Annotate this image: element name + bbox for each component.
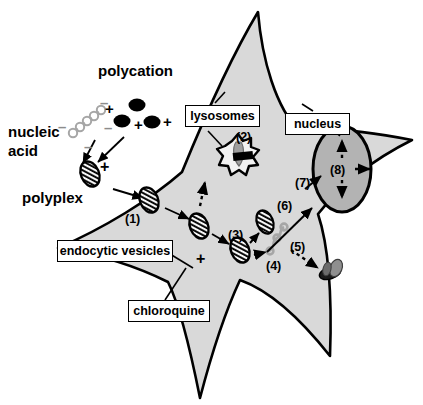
- step-label-4: (4): [266, 259, 281, 273]
- label-polycation: polycation: [98, 62, 173, 79]
- label-box-nucleus: nucleus: [285, 113, 350, 135]
- step-label-5: (5): [290, 240, 305, 254]
- label-nucleic-acid-line1: nucleic: [8, 123, 60, 140]
- charge-plus-polycation-3: +: [163, 113, 172, 130]
- leader-nucleus-up: [302, 104, 313, 111]
- label-box-endocytic-vesicles: endocytic vesicles: [57, 240, 173, 262]
- label-nucleic-acid-line2: acid: [8, 142, 38, 159]
- charge-minus-nucleic-4: –: [84, 138, 92, 155]
- step-label-3: (3): [228, 228, 243, 242]
- charge-plus-polycation-2: +: [134, 116, 143, 133]
- step-label-6: (6): [277, 199, 292, 213]
- step-label-1: (1): [125, 212, 140, 226]
- figure-canvas: polycation nucleic acid polyplex + + + –…: [0, 0, 423, 405]
- step-label-2: (2): [236, 130, 251, 144]
- charge-minus-nucleic-1: –: [100, 94, 108, 111]
- step-label-8: (8): [330, 163, 345, 177]
- charge-plus-polyplex: +: [100, 158, 109, 176]
- charge-plus-chloroquine: +: [196, 250, 205, 268]
- charge-minus-nucleic-2: –: [58, 118, 66, 135]
- label-polyplex: polyplex: [22, 189, 83, 206]
- label-box-lysosomes: lysosomes: [185, 105, 260, 127]
- step-label-7: (7): [295, 176, 310, 190]
- label-box-chloroquine: chloroquine: [128, 300, 210, 322]
- charge-minus-nucleic-3: –: [104, 119, 112, 136]
